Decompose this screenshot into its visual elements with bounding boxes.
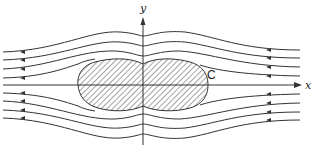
streamline-8 xyxy=(3,118,300,138)
axes xyxy=(3,24,296,145)
y-axis-arrow-icon xyxy=(141,17,146,25)
body-label: C xyxy=(207,68,216,82)
streamline-7 xyxy=(3,110,300,128)
streamline-2 xyxy=(3,42,300,60)
streamline-1 xyxy=(3,32,300,52)
x-axis-arrow-icon xyxy=(294,82,302,88)
flow-diagram: x y C xyxy=(0,0,313,153)
y-axis-label: y xyxy=(139,2,147,15)
x-axis-label: x xyxy=(305,79,312,92)
